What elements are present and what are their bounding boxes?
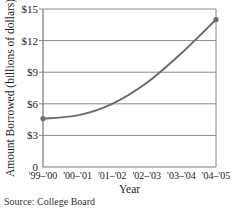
endpoint-marker <box>213 17 218 22</box>
y-tick-label: $6 <box>27 98 39 110</box>
y-axis-title: Amount Borrowed (billions of dollars) <box>4 0 17 177</box>
x-tick-label: '04–'05 <box>202 170 231 181</box>
y-tick-label: $12 <box>22 35 39 47</box>
y-tick-label: $9 <box>27 66 39 78</box>
x-tick-label: '00–'01 <box>63 170 92 181</box>
source-note: Source: College Board <box>4 196 95 207</box>
y-tick-labels: 0$3$6$9$12$15 <box>22 3 39 173</box>
y-tick-label: $3 <box>27 129 39 141</box>
x-tick-label: '02–'03 <box>132 170 161 181</box>
x-tick-label: '99–'00 <box>29 170 58 181</box>
endpoint-marker <box>40 116 45 121</box>
y-tick-label: $15 <box>22 3 39 15</box>
x-tick-label: '01–'02 <box>98 170 127 181</box>
x-tick-label: '03–'04 <box>167 170 196 181</box>
x-axis-title: Year <box>119 183 140 195</box>
endpoint-markers <box>40 17 218 121</box>
line-chart: 0$3$6$9$12$15 '99–'00'00–'01'01–'02'02–'… <box>0 0 233 219</box>
x-tick-labels: '99–'00'00–'01'01–'02'02–'03'03–'04'04–'… <box>29 170 231 181</box>
